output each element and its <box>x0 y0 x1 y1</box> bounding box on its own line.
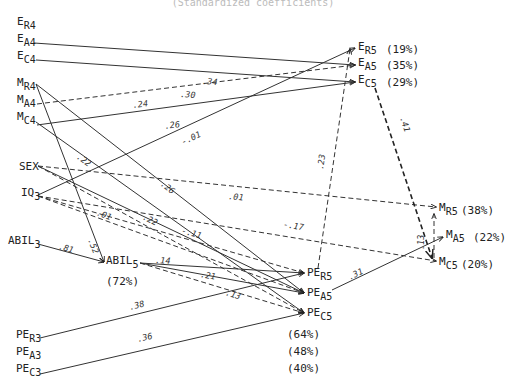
path-EC5-to-MC5 <box>375 88 432 258</box>
variance-ER5: (19%) <box>386 43 419 56</box>
coefficient-label: .52 <box>86 237 101 255</box>
path-IQ3-to-PER5 <box>38 196 304 273</box>
node-subscript: 3 <box>34 191 40 202</box>
node-subscript: R4 <box>24 81 36 92</box>
variance-MR5: (38%) <box>461 204 494 217</box>
node-subscript: A5 <box>453 233 465 244</box>
path-PER3-to-PER5 <box>40 273 304 338</box>
coefficient-label: .24 <box>132 98 148 110</box>
variance-PEC5: (40%) <box>287 362 320 375</box>
node-subscript: R3 <box>29 333 41 344</box>
node-subscript: R4 <box>24 20 36 31</box>
node-EC5: EC5 <box>358 73 377 89</box>
node-base: ABIL <box>8 234 35 247</box>
coefficient-label: .81 <box>57 241 74 255</box>
coefficient-label: -.01 <box>180 129 203 147</box>
node-subscript: A4 <box>24 98 36 109</box>
node-base: E <box>17 15 24 28</box>
node-subscript: C4 <box>24 54 36 65</box>
node-base: E <box>358 40 365 53</box>
node-PER3: PER3 <box>16 328 41 344</box>
coefficient-label: .14 <box>155 255 171 266</box>
node-subscript: C4 <box>24 115 36 126</box>
node-EA4: EA4 <box>17 32 36 48</box>
node-subscript: R5 <box>446 206 458 217</box>
node-MA5: MA5 <box>446 228 465 244</box>
node-base: PE <box>16 328 29 341</box>
variance-MA5: (22%) <box>473 231 506 244</box>
node-subscript: C5 <box>365 78 377 89</box>
coefficient-label: .22 <box>75 151 93 168</box>
node-base: PE <box>307 266 320 279</box>
path-EA4-to-EA5 <box>34 43 355 65</box>
path-arrows <box>34 43 443 374</box>
coefficient-label: .21 <box>200 269 217 282</box>
coefficient-label: .01 <box>95 207 113 222</box>
variance-PER5: (64%) <box>287 328 320 341</box>
node-MA4: MA4 <box>17 93 36 109</box>
node-subscript: A4 <box>24 37 36 48</box>
node-base: E <box>17 49 24 62</box>
node-MC5: MC5 <box>439 255 458 271</box>
variance-EC5: (29%) <box>386 76 419 89</box>
node-base: PE <box>307 286 320 299</box>
path-PEC3-to-PEC5 <box>40 313 304 374</box>
coefficient-label: .13 <box>416 235 426 250</box>
coefficient-label: .26 <box>164 119 181 131</box>
coefficient-label: .30 <box>180 89 196 100</box>
node-PEA3: PEA3 <box>16 345 41 361</box>
node-subscript: C5 <box>446 260 458 271</box>
path-IQ3-to-PEA5 <box>38 196 304 293</box>
node-MR4: MR4 <box>17 76 36 92</box>
diagram-title: (Standardized coefficients) <box>172 0 335 8</box>
node-base: E <box>358 56 365 69</box>
node-base: E <box>358 73 365 86</box>
node-base: SEX <box>19 160 39 173</box>
node-PEC5: PEC5 <box>307 306 332 322</box>
path-coefficients: .34.30.24.26-.01.52.26.22.01.22-.17-.11.… <box>57 76 426 344</box>
coefficient-label: .23 <box>315 154 327 171</box>
node-ER5: ER5 <box>358 40 377 56</box>
node-EA5: EA5 <box>358 56 377 72</box>
node-base: PE <box>16 345 29 358</box>
node-SEX: SEX <box>19 160 39 173</box>
node-subscript: R5 <box>365 45 377 56</box>
node-base: PE <box>307 306 320 319</box>
path-MC4-to-EC5 <box>37 82 355 125</box>
path-PEA5-to-MA5 <box>332 237 443 290</box>
node-ABIL5: ABIL5 <box>106 254 139 270</box>
variance-MC5: (20%) <box>461 258 494 271</box>
coefficient-label: .31 <box>347 266 365 282</box>
node-IQ3: IQ3 <box>21 186 40 202</box>
node-subscript: A5 <box>320 291 332 302</box>
path-IQ3-to-ER5 <box>38 48 355 195</box>
variance-ABIL5: (72%) <box>106 275 139 288</box>
node-base: PE <box>16 362 29 375</box>
coefficient-label: .34 <box>202 76 218 87</box>
node-MR5: MR5 <box>439 201 458 217</box>
coefficient-label: .38 <box>128 299 145 312</box>
node-base: IQ <box>21 186 34 199</box>
node-subscript: A3 <box>29 350 41 361</box>
node-subscript: R5 <box>320 271 332 282</box>
node-ER4: ER4 <box>17 15 36 31</box>
node-base: E <box>17 32 24 45</box>
path-MC4-to-PEC5 <box>36 122 304 313</box>
node-ABIL3: ABIL3 <box>8 234 41 250</box>
node-PEC3: PEC3 <box>16 362 41 378</box>
coefficient-label: -.17 <box>283 219 306 232</box>
node-MC4: MC4 <box>17 110 36 126</box>
coefficient-label: .41 <box>398 115 412 133</box>
node-PEA5: PEA5 <box>307 286 332 302</box>
node-subscript: 5 <box>133 259 139 270</box>
coefficient-label: .36 <box>136 331 153 344</box>
node-base: ABIL <box>106 254 133 267</box>
variance-EA5: (35%) <box>386 59 419 72</box>
node-subscript: A5 <box>365 61 377 72</box>
coefficient-label: .13 <box>224 287 242 301</box>
node-subscript: 3 <box>35 239 41 250</box>
coefficient-label: -.11 <box>180 225 202 240</box>
node-subscript: C3 <box>29 367 41 378</box>
path-diagram: (Standardized coefficients) .34.30.24.26… <box>0 0 506 385</box>
variance-PEA5: (48%) <box>287 345 320 358</box>
